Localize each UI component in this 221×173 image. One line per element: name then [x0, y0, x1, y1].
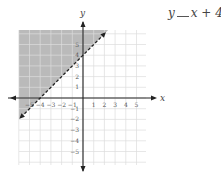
inequality-sign-blank[interactable]: [177, 7, 189, 17]
y-tick-label: −1: [70, 105, 79, 112]
x-tick-label: −2: [57, 101, 66, 108]
y-axis-label: y: [79, 8, 86, 18]
coordinate-plane: xy −5−4−3−2−11234554321−1−2−3−4−5: [0, 0, 221, 173]
x-axis-label: x: [160, 93, 165, 103]
x-tick-label: 2: [102, 101, 106, 108]
y-tick-label: 3: [75, 62, 79, 69]
y-tick-label: 5: [75, 41, 79, 48]
inequality-equation: yx + 4: [168, 6, 221, 20]
x-tick-label: −5: [25, 101, 34, 108]
y-tick-label: 1: [75, 83, 79, 90]
y-tick-label: 4: [75, 51, 79, 58]
y-tick-label: −5: [70, 148, 79, 155]
x-tick-label: −4: [36, 101, 45, 108]
equation-lhs: y: [168, 6, 175, 20]
y-tick-label: 2: [75, 73, 79, 80]
x-tick-label: 1: [92, 101, 96, 108]
y-axis-down-arrow-icon: [81, 166, 86, 172]
x-tick-label: −3: [46, 101, 55, 108]
x-tick-label: 4: [124, 101, 128, 108]
x-tick-label: 3: [113, 101, 117, 108]
x-axis-right-arrow-icon: [151, 96, 157, 101]
y-tick-label: −4: [70, 137, 79, 144]
x-axis-left-arrow-icon: [10, 96, 16, 101]
equation-rhs: x + 4: [191, 6, 221, 20]
y-tick-label: −2: [70, 115, 79, 122]
y-tick-label: −3: [70, 126, 79, 133]
x-tick-label: 5: [135, 101, 139, 108]
y-axis-up-arrow-icon: [81, 21, 86, 27]
